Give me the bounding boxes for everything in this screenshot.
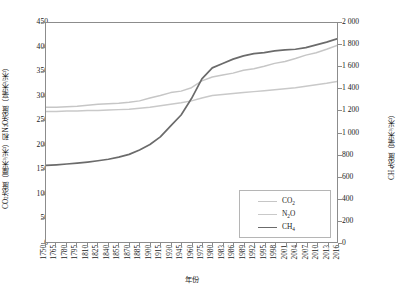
- legend-label: CO2: [282, 197, 295, 207]
- chart-legend: CO2N2OCH4: [239, 190, 331, 238]
- legend-label: N2O: [282, 210, 295, 220]
- x-axis-tick-mark: [118, 243, 119, 247]
- x-axis-tick-mark: [254, 243, 255, 247]
- y-axis-right-tick-mark: [338, 22, 342, 23]
- y-axis-right-tick-mark: [338, 66, 342, 67]
- x-axis-tick-mark: [202, 243, 203, 247]
- y-axis-right-tick-label: 1 400: [342, 84, 359, 92]
- legend-swatch-icon: [258, 201, 277, 202]
- x-axis-tick-mark: [150, 243, 151, 247]
- x-axis-tick-label: 1900: [146, 245, 153, 259]
- x-axis-tick-mark: [108, 243, 109, 247]
- x-axis-tick-mark: [87, 243, 88, 247]
- legend-item[interactable]: CH4: [240, 221, 330, 234]
- x-axis-tick-mark: [244, 243, 245, 247]
- y-axis-right-tick-mark: [338, 221, 342, 222]
- x-axis-tick-label: 1810: [83, 245, 90, 259]
- x-axis-tick-label: 1975: [198, 245, 205, 259]
- legend-swatch-icon: [258, 214, 277, 215]
- x-axis-tick-label: 1983: [219, 245, 226, 259]
- x-axis-tick-label: 1825: [93, 245, 100, 259]
- x-axis-tick-mark: [296, 243, 297, 247]
- x-axis-tick-label: 1986: [229, 245, 236, 259]
- x-axis-tick-label: 1992: [250, 245, 257, 259]
- x-axis-tick-label: 1998: [271, 245, 278, 259]
- x-axis-tick-label: 2004: [292, 245, 299, 259]
- x-axis-tick-label: 1915: [156, 245, 163, 259]
- x-axis-tick-mark: [286, 243, 287, 247]
- y-axis-right-tick-label: 1 000: [342, 129, 359, 137]
- x-axis-title: 年份: [45, 273, 339, 284]
- x-axis-tick-label: 1945: [177, 245, 184, 259]
- y-axis-left-title: CO2浓度（厘米³/米³）和N2O浓度（毫米³/米³）: [1, 28, 11, 244]
- x-axis-tick-mark: [338, 243, 339, 247]
- x-axis-tick-label: 2007: [303, 245, 310, 259]
- legend-swatch-icon: [258, 227, 277, 228]
- legend-item[interactable]: N2O: [240, 208, 330, 221]
- x-axis-tick-label: 2010: [313, 245, 320, 259]
- y-axis-right-tick-label: 400: [342, 195, 353, 203]
- x-axis-tick-label: 1995: [261, 245, 268, 259]
- y-axis-right-tick-label: 1 800: [342, 40, 359, 48]
- x-axis-tick-label: 1840: [104, 245, 111, 259]
- x-axis-tick-label: 2001: [282, 245, 289, 259]
- x-axis-tick-label: 1855: [114, 245, 121, 259]
- y-axis-right-tick-mark: [338, 110, 342, 111]
- x-axis-tick-label: 1989: [240, 245, 247, 259]
- x-axis-tick-mark: [275, 243, 276, 247]
- x-axis-tick-mark: [76, 243, 77, 247]
- x-axis-tick-mark: [192, 243, 193, 247]
- x-axis-tick-mark: [317, 243, 318, 247]
- y-axis-right-tick-label: 200: [342, 217, 353, 225]
- x-axis-tick-mark: [181, 243, 182, 247]
- series-line: [46, 81, 337, 111]
- y-axis-right-tick-label: 600: [342, 173, 353, 181]
- x-axis-tick-mark: [307, 243, 308, 247]
- x-axis-tick-label: 1750: [41, 245, 48, 259]
- y-axis-right-tick-mark: [338, 177, 342, 178]
- x-axis-tick-label: 2016: [334, 245, 341, 259]
- y-axis-right-tick-mark: [338, 88, 342, 89]
- legend-label: CH4: [282, 223, 295, 233]
- x-axis-tick-label: 1960: [188, 245, 195, 259]
- x-axis-tick-mark: [233, 243, 234, 247]
- x-axis-tick-mark: [171, 243, 172, 247]
- y-axis-right-tick-label: 1 600: [342, 62, 359, 70]
- x-axis-tick-mark: [160, 243, 161, 247]
- x-axis-tick-mark: [45, 243, 46, 247]
- x-axis-tick-label: 2013: [324, 245, 331, 259]
- x-axis-tick-label: 1980: [208, 245, 215, 259]
- y-axis-right-tick-label: 800: [342, 151, 353, 159]
- legend-item[interactable]: CO2: [240, 195, 330, 208]
- x-axis-tick-label: 1885: [135, 245, 142, 259]
- x-axis-tick-label: 1780: [62, 245, 69, 259]
- y-axis-right-tick-label: 1 200: [342, 106, 359, 114]
- y-axis-right-tick-label: 0: [342, 239, 346, 247]
- x-axis-tick-mark: [139, 243, 140, 247]
- y-axis-right-tick-label: 2 000: [342, 18, 359, 26]
- y-axis-right-tick-mark: [338, 133, 342, 134]
- y-axis-right-tick-mark: [338, 44, 342, 45]
- x-axis-tick-mark: [55, 243, 56, 247]
- y-axis-right-tick-mark: [338, 199, 342, 200]
- x-axis-tick-mark: [66, 243, 67, 247]
- x-axis-tick-label: 1930: [167, 245, 174, 259]
- x-axis-tick-mark: [328, 243, 329, 247]
- x-axis-tick-label: 1870: [125, 245, 132, 259]
- x-axis-tick-mark: [223, 243, 224, 247]
- y-axis-right-title: CH4浓度（毫米³/米³）: [387, 60, 397, 230]
- x-axis-tick-label: 1765: [51, 245, 58, 259]
- x-axis-tick-mark: [129, 243, 130, 247]
- series-line: [46, 39, 337, 165]
- x-axis-tick-mark: [97, 243, 98, 247]
- x-axis-tick-label: 1795: [72, 245, 79, 259]
- x-axis-tick-mark: [212, 243, 213, 247]
- y-axis-right-tick-mark: [338, 155, 342, 156]
- chart-figure: CO2浓度（厘米³/米³）和N2O浓度（毫米³/米³） CH4浓度（毫米³/米³…: [0, 0, 397, 294]
- x-axis-tick-mark: [265, 243, 266, 247]
